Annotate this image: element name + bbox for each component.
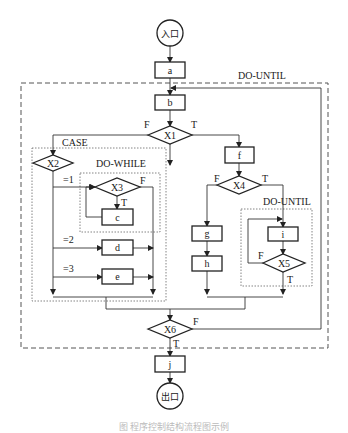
svg-text:X4: X4 <box>233 180 245 191</box>
svg-text:X6: X6 <box>164 324 176 335</box>
decision-x4: X4 <box>217 176 261 194</box>
process-f: f <box>225 147 254 163</box>
process-d: d <box>102 240 133 255</box>
connectors <box>53 46 321 383</box>
svg-text:F: F <box>140 175 146 186</box>
entry-node: 入口 <box>157 20 183 46</box>
svg-text:F: F <box>214 173 220 184</box>
outer-do-until-label: DO-UNTIL <box>238 70 286 81</box>
svg-text:=2: =2 <box>63 234 74 245</box>
process-g: g <box>192 226 222 241</box>
process-i: i <box>268 227 298 241</box>
exit-node: 出口 <box>157 383 183 409</box>
svg-text:=1: =1 <box>63 174 74 185</box>
svg-text:X5: X5 <box>278 258 290 269</box>
svg-text:T: T <box>262 173 268 184</box>
svg-text:F: F <box>193 316 199 327</box>
case-label: CASE <box>62 137 88 148</box>
svg-text:T: T <box>287 274 293 285</box>
decision-x1: X1 <box>148 126 192 144</box>
svg-text:h: h <box>205 258 210 269</box>
svg-text:b: b <box>168 97 173 108</box>
decision-x2: X2 <box>33 155 73 171</box>
inner-do-until-label: DO-UNTIL <box>263 196 311 207</box>
process-h: h <box>192 256 222 271</box>
svg-text:T: T <box>191 119 197 130</box>
decision-x3: X3 <box>95 178 140 196</box>
svg-text:X2: X2 <box>47 158 59 169</box>
process-e: e <box>102 269 133 284</box>
svg-text:j: j <box>168 359 172 370</box>
svg-text:出口: 出口 <box>161 391 179 402</box>
svg-text:T: T <box>121 197 127 208</box>
process-a: a <box>155 62 185 78</box>
do-while-label: DO-WHILE <box>96 158 146 169</box>
svg-text:F: F <box>144 119 150 130</box>
svg-text:e: e <box>115 271 120 282</box>
figure-caption: 图 程序控制结构流程图示例 <box>0 420 348 433</box>
decision-x6: X6 <box>148 320 192 338</box>
process-c: c <box>102 209 133 225</box>
edge-labels: F T =1 =2 =3 F T F T F T F T <box>63 119 293 349</box>
svg-text:F: F <box>258 250 264 261</box>
outer-do-until-region <box>21 83 328 348</box>
svg-text:d: d <box>115 242 120 253</box>
process-j: j <box>155 356 185 372</box>
inner-do-until-region <box>241 209 312 286</box>
svg-text:入口: 入口 <box>161 29 179 39</box>
svg-text:=3: =3 <box>63 263 74 274</box>
svg-text:c: c <box>115 212 120 223</box>
svg-text:X1: X1 <box>164 130 176 141</box>
process-b: b <box>155 95 185 110</box>
svg-text:T: T <box>173 338 179 349</box>
decision-x5: X5 <box>263 254 305 272</box>
svg-text:g: g <box>205 228 210 239</box>
svg-text:i: i <box>282 229 285 240</box>
svg-text:a: a <box>168 65 173 76</box>
svg-text:X3: X3 <box>111 182 123 193</box>
